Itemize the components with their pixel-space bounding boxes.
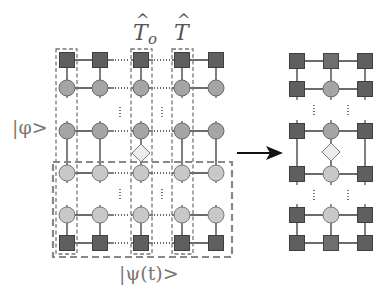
contracted-edge-tensor <box>358 82 373 97</box>
tensor-square-bottom <box>209 236 224 251</box>
tensor-square-top <box>60 53 75 68</box>
tensor-square-top <box>93 53 108 68</box>
tensor-square-bottom <box>93 236 108 251</box>
tensor-circle-ket <box>208 207 224 223</box>
tensor-square <box>290 236 305 251</box>
tensor-circle <box>323 166 339 182</box>
operator-T0-subscript: o <box>148 30 157 48</box>
tensor-circle-bra <box>174 123 190 139</box>
phi-state-label: |φ> <box>12 116 48 139</box>
tensor-circle-bra <box>59 80 75 96</box>
operator-T-hat: ^ <box>177 11 190 30</box>
transformation-arrow <box>237 146 283 160</box>
tensor-square <box>358 236 373 251</box>
right-tensor-network <box>290 54 373 251</box>
operator-diamond <box>132 144 150 162</box>
tensor-circle-bra <box>92 80 108 96</box>
tensor-square <box>358 54 373 69</box>
tensor-circle-ket <box>92 207 108 223</box>
contracted-edge-tensor <box>358 208 373 223</box>
tensor-circle <box>323 81 339 97</box>
left-tensor-network <box>53 49 232 257</box>
tensor-square-top <box>175 53 190 68</box>
tensor-circle-ket <box>174 207 190 223</box>
contracted-edge-tensor <box>290 82 305 97</box>
tensor-square-bottom <box>60 236 75 251</box>
tensor-circle-bra <box>208 123 224 139</box>
tensor-square <box>324 236 339 251</box>
tensor-circle-bra <box>174 80 190 96</box>
operator-diamond <box>322 143 340 161</box>
contracted-edge-tensor <box>358 124 373 139</box>
operator-T0-label: T o ^ <box>133 11 157 48</box>
tensor-square-top <box>134 53 149 68</box>
tensor-square-bottom <box>175 236 190 251</box>
tensor-circle-bra <box>208 80 224 96</box>
tensor-circle-bra <box>133 80 149 96</box>
tensor-circle-ket <box>174 165 190 181</box>
tensor-square <box>324 54 339 69</box>
contracted-edge-tensor <box>290 208 305 223</box>
tensor-square <box>290 54 305 69</box>
tensor-circle <box>323 207 339 223</box>
tensor-circle-ket <box>59 165 75 181</box>
psi-state-label: |ψ(t)> <box>119 262 179 285</box>
tensor-circle-ket <box>133 207 149 223</box>
contracted-edge-tensor <box>290 167 305 182</box>
contracted-edge-tensor <box>290 124 305 139</box>
tensor-circle-ket <box>208 165 224 181</box>
tensor-circle-bra <box>59 123 75 139</box>
operator-T0-hat: ^ <box>136 11 149 30</box>
tensor-network-diagram: |φ> |ψ(t)> T o ^ T ^ <box>0 0 387 300</box>
operator-T-label: T ^ <box>174 11 191 45</box>
tensor-square-bottom <box>134 236 149 251</box>
tensor-circle-ket <box>92 165 108 181</box>
tensor-square-top <box>209 53 224 68</box>
tensor-circle-ket <box>59 207 75 223</box>
contracted-edge-tensor <box>358 167 373 182</box>
tensor-circle-ket <box>133 165 149 181</box>
tensor-circle-bra <box>133 123 149 139</box>
tensor-circle <box>323 123 339 139</box>
tensor-circle-bra <box>92 123 108 139</box>
